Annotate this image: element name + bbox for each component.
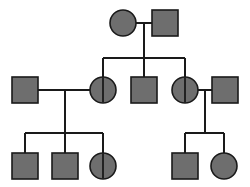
individual-II-2-female-carrier[interactable] [90, 77, 116, 103]
individual-III-2-male-affected[interactable] [52, 153, 78, 179]
individual-II-4-female-carrier[interactable] [172, 77, 198, 103]
individual-II-3-male-affected[interactable] [131, 77, 157, 103]
individual-III-5-female-affected[interactable] [211, 153, 237, 179]
individual-III-1-male-affected[interactable] [12, 153, 38, 179]
individual-III-3-female-carrier[interactable] [90, 153, 116, 179]
individual-II-1-male-affected[interactable] [12, 77, 38, 103]
pedigree-chart [0, 0, 250, 187]
individual-I-1-female-affected[interactable] [110, 10, 136, 36]
individual-III-4-male-affected[interactable] [172, 153, 198, 179]
individual-II-5-male-affected[interactable] [212, 77, 238, 103]
pedigree-diagram-canvas [0, 0, 250, 187]
individual-I-2-male-affected[interactable] [152, 10, 178, 36]
